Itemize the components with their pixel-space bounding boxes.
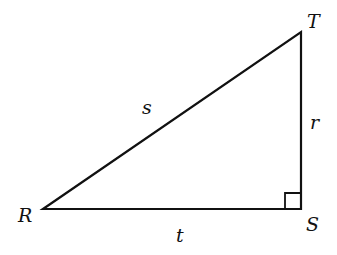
vertex-label-r: R bbox=[17, 204, 32, 226]
triangle-rst bbox=[43, 32, 301, 209]
right-triangle-diagram: T R S s r t bbox=[0, 0, 337, 255]
vertex-label-t: T bbox=[307, 10, 321, 32]
vertex-label-s: S bbox=[306, 213, 319, 235]
side-label-r: r bbox=[310, 111, 321, 133]
side-label-t: t bbox=[176, 224, 184, 246]
right-angle-marker bbox=[285, 193, 301, 209]
side-label-s: s bbox=[142, 96, 152, 118]
